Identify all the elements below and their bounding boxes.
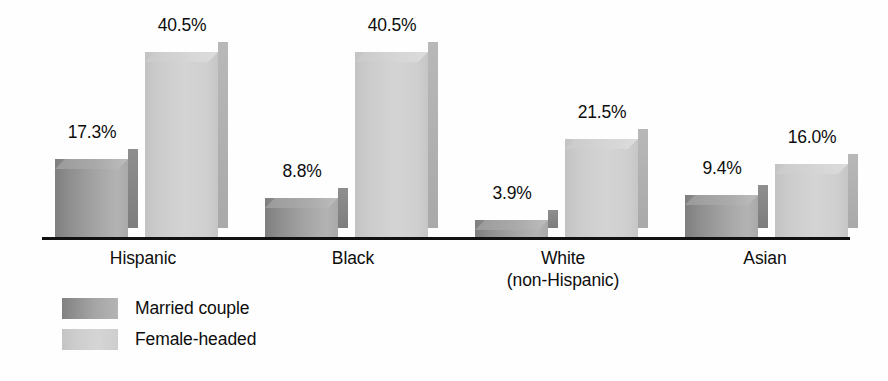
bar-female-headed-black <box>355 52 428 238</box>
legend-label-married-couple: Married couple <box>135 298 249 319</box>
legend-swatch-married-couple <box>62 298 118 319</box>
value-label-married-couple-asian: 9.4% <box>676 158 768 179</box>
bar-top-face <box>565 139 638 149</box>
category-label-hispanic: Hispanic <box>110 248 176 269</box>
legend-item-female-headed: Female-headed <box>62 327 256 352</box>
category-label-text: Asian <box>743 248 786 268</box>
x-axis-baseline <box>42 237 850 240</box>
bar-side-face <box>548 210 558 228</box>
plot-area: 17.3% 40.5% 8.8% 40.5% 3.9% <box>0 0 888 381</box>
category-label-white: White (non-Hispanic) <box>507 248 619 291</box>
bar-top-face <box>265 198 338 208</box>
bar-front-face <box>355 52 428 238</box>
category-label-asian: Asian <box>743 248 786 269</box>
category-label-black: Black <box>332 248 374 269</box>
bar-top-face <box>355 52 428 62</box>
bar-side-face <box>338 188 348 228</box>
bar-married-couple-hispanic <box>55 159 128 238</box>
chart-legend: Married couple Female-headed <box>62 296 256 358</box>
bar-married-couple-black <box>265 198 338 238</box>
chart-figure: 17.3% 40.5% 8.8% 40.5% 3.9% <box>0 0 888 381</box>
legend-item-married-couple: Married couple <box>62 296 256 321</box>
category-label-text: Black <box>332 248 374 268</box>
bar-top-face <box>55 159 128 169</box>
category-label-text: White <box>541 248 585 268</box>
bar-front-face <box>55 159 128 238</box>
bar-front-face <box>565 139 638 238</box>
bar-female-headed-asian <box>775 164 848 238</box>
value-label-married-couple-hispanic: 17.3% <box>46 122 138 143</box>
bar-side-face <box>428 42 438 228</box>
bar-side-face <box>848 154 858 228</box>
bar-side-face <box>128 149 138 228</box>
category-sublabel-text: (non-Hispanic) <box>507 270 619 291</box>
bar-female-headed-hispanic <box>145 52 218 238</box>
bar-married-couple-asian <box>685 195 758 238</box>
bar-top-face <box>475 220 548 230</box>
value-label-female-headed-asian: 16.0% <box>766 127 858 148</box>
bar-side-face <box>218 42 228 228</box>
bar-front-face <box>145 52 218 238</box>
bar-front-face <box>775 164 848 238</box>
value-label-female-headed-black: 40.5% <box>346 15 438 36</box>
bar-side-face <box>758 185 768 228</box>
value-label-female-headed-white: 21.5% <box>556 102 648 123</box>
legend-label-female-headed: Female-headed <box>135 329 256 350</box>
category-label-text: Hispanic <box>110 248 176 268</box>
legend-swatch-female-headed <box>62 329 118 350</box>
value-label-married-couple-black: 8.8% <box>256 161 348 182</box>
bar-side-face <box>638 129 648 228</box>
bar-married-couple-white <box>475 220 548 238</box>
bar-top-face <box>775 164 848 174</box>
bar-top-face <box>145 52 218 62</box>
value-label-married-couple-white: 3.9% <box>466 183 558 204</box>
bar-female-headed-white <box>565 139 638 238</box>
value-label-female-headed-hispanic: 40.5% <box>136 15 228 36</box>
bar-top-face <box>685 195 758 205</box>
